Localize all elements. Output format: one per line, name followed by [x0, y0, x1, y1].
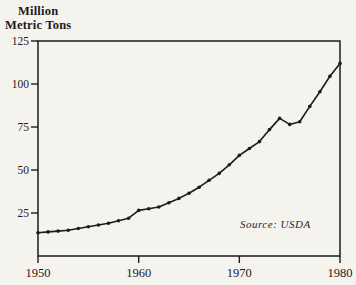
- data-point: [268, 128, 272, 132]
- data-point: [328, 75, 332, 79]
- data-point: [177, 197, 181, 201]
- data-point: [97, 223, 101, 227]
- data-point: [36, 231, 40, 235]
- data-point: [338, 62, 342, 66]
- data-point: [207, 179, 211, 183]
- chart-canvas: 2550751001251950196019701980: [0, 0, 356, 285]
- y-tick-label: 125: [12, 35, 30, 47]
- x-tick-label: 1970: [227, 266, 252, 280]
- x-tick-label: 1980: [328, 266, 353, 280]
- data-point: [228, 163, 232, 167]
- y-tick-label: 75: [18, 121, 30, 133]
- data-point: [197, 185, 201, 189]
- source-label: Source: USDA: [240, 218, 311, 230]
- fertilizer-consumption-figure: Million Metric Tons 25507510012519501960…: [0, 0, 356, 285]
- data-point: [187, 191, 191, 195]
- data-point: [107, 222, 111, 226]
- data-point: [258, 140, 262, 144]
- data-point: [217, 172, 221, 176]
- data-point: [137, 209, 141, 213]
- data-point: [157, 205, 161, 209]
- data-point: [56, 229, 60, 233]
- data-point: [308, 105, 312, 109]
- y-tick-label: 100: [12, 78, 30, 90]
- data-point: [117, 219, 121, 223]
- data-point: [167, 201, 171, 205]
- data-point: [147, 207, 151, 211]
- data-line: [38, 63, 340, 232]
- x-tick-label: 1960: [126, 266, 151, 280]
- y-tick-label: 25: [18, 207, 30, 219]
- data-point: [318, 90, 322, 94]
- data-point: [87, 225, 91, 229]
- data-point: [298, 120, 302, 124]
- data-point: [248, 147, 252, 151]
- data-point: [288, 123, 292, 127]
- data-point: [238, 154, 242, 158]
- data-point: [77, 227, 81, 231]
- x-tick-label: 1950: [26, 266, 51, 280]
- data-point: [66, 228, 70, 232]
- y-tick-label: 50: [18, 164, 30, 176]
- data-point: [127, 216, 131, 220]
- data-point: [278, 117, 282, 121]
- data-point: [46, 230, 50, 234]
